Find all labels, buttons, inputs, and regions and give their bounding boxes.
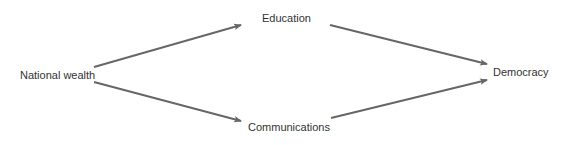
node-democracy: Democracy — [493, 66, 549, 79]
edge-education-to-democracy — [330, 25, 487, 64]
edge-wealth-to-communications — [94, 82, 241, 121]
node-education: Education — [262, 12, 311, 25]
edge-communications-to-democracy — [331, 80, 487, 118]
edge-wealth-to-education — [94, 25, 241, 67]
path-diagram: National wealth Education Communications… — [0, 0, 563, 145]
node-communications: Communications — [248, 121, 330, 134]
node-national-wealth: National wealth — [20, 69, 95, 82]
